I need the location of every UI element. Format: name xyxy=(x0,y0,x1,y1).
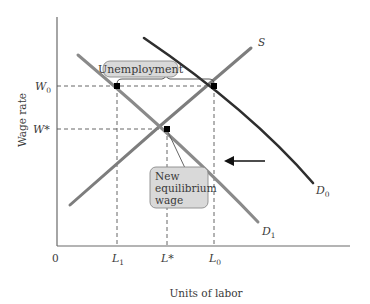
demand-shift-arrow-head xyxy=(224,156,234,166)
demand-d0-label: D0 xyxy=(315,184,330,199)
x-tick-l0: L0 xyxy=(208,252,221,267)
labor-market-diagram: Unemployment New equilibrium wage S D0 D… xyxy=(0,0,370,304)
y-axis-title: Wage rate xyxy=(16,93,28,147)
point-new-equilibrium xyxy=(164,126,170,132)
new-equilibrium-line-1: New xyxy=(155,170,179,182)
x-tick-l1: L1 xyxy=(111,252,124,267)
y-tick-wstar: W* xyxy=(33,123,50,136)
x-axis-title: Units of labor xyxy=(169,287,243,299)
unemployment-label: Unemployment xyxy=(98,63,184,76)
point-w0-l0 xyxy=(211,83,217,89)
y-tick-w0: W0 xyxy=(35,80,51,95)
x-tick-lstar: L* xyxy=(160,252,174,265)
new-equilibrium-line-3: wage xyxy=(155,194,183,206)
new-equilibrium-line-2: equilibrium xyxy=(155,182,217,194)
demand-d1-label: D1 xyxy=(261,225,276,240)
origin-label: 0 xyxy=(52,252,59,264)
new-equilibrium-leader xyxy=(168,132,185,168)
supply-label: S xyxy=(258,36,265,48)
point-w0-l1 xyxy=(114,83,120,89)
